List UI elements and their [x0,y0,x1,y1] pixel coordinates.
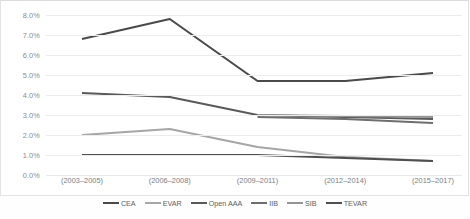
legend-swatch-icon [326,202,342,205]
x-axis-tick-label: (2012–2014) [324,176,366,185]
legend-item-cea[interactable]: CEA [103,199,136,208]
legend-item-open-aaa[interactable]: Open AAA [191,199,243,208]
legend-swatch-icon [287,202,303,205]
x-axis-tick-label: (2009–2011) [237,176,278,185]
legend-label: IIB [269,199,278,208]
series-line-evar [82,129,433,161]
y-axis-tick-label: 1.0% [23,151,40,160]
gridline [46,95,462,96]
gridline [46,75,462,76]
y-axis-tick-label: 7.0% [23,31,40,40]
gridline [46,155,462,156]
legend-item-iib[interactable]: IIB [251,199,278,208]
y-axis-tick-label: 5.0% [23,71,40,80]
legend-swatch-icon [251,202,267,205]
series-line-cea [82,19,433,81]
legend-item-sib[interactable]: SIB [287,199,317,208]
plot-area [46,0,463,196]
legend-label: SIB [305,199,317,208]
legend-label: TEVAR [344,199,367,208]
legend-label: Open AAA [209,199,243,208]
legend-swatch-icon [103,202,119,205]
y-axis-tick-label: 4.0% [23,91,40,100]
y-axis-tick-label: 2.0% [23,131,40,140]
y-axis: 8.0%7.0%6.0%5.0%4.0%3.0%2.0%1.0%0.0% [0,0,46,196]
y-axis-tick-label: 6.0% [23,51,40,60]
chart-legend: CEAEVAROpen AAAIIBSIBTEVAR [0,196,470,210]
legend-item-evar[interactable]: EVAR [145,199,182,208]
gridline [46,135,462,136]
x-axis: (2003–2005)(2006–2008)(2009–2011)(2012–2… [46,176,463,194]
x-axis-tick-label: (2003–2005) [61,176,103,185]
y-axis-tick-label: 0.0% [23,171,40,180]
line-chart: 8.0%7.0%6.0%5.0%4.0%3.0%2.0%1.0%0.0% (20… [0,0,470,219]
gridline [46,55,462,56]
gridline [46,35,462,36]
legend-item-tevar[interactable]: TEVAR [326,199,367,208]
caption-strip [0,210,470,219]
y-axis-tick-label: 3.0% [23,111,40,120]
series-lines-layer [46,0,463,196]
y-axis-tick-label: 8.0% [23,11,40,20]
x-axis-tick-label: (2015–2017) [412,176,454,185]
legend-label: EVAR [163,199,182,208]
gridline [46,15,462,16]
legend-swatch-icon [145,202,161,205]
x-axis-tick-label: (2006–2008) [149,176,191,185]
legend-label: CEA [121,199,136,208]
legend-swatch-icon [191,202,207,205]
gridline [46,115,462,116]
